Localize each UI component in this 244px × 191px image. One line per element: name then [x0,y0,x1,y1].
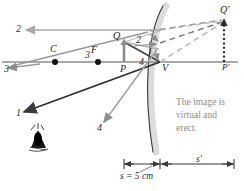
label-point-Q: Q [113,31,120,41]
ray-4-direction-arrow [156,52,158,60]
label-point-P-prime: P′ [222,63,229,72]
ray-label-4-lower: 4 [97,123,102,133]
scale-label-s-prime: s′ [196,155,202,165]
ray-label-4-near-mirror: 4 [139,57,144,67]
scale-label-s: s = 5 cm [120,172,153,182]
ray-3-line [12,32,148,66]
ray-label-1-near-mirror: 1 [148,47,153,56]
mirror-glow [151,6,166,152]
point-dot-F [95,59,101,65]
optics-diagram-canvas: C F Q P V Q′ P′ 2 3 3 2 1 4 1 4 The imag… [0,0,244,191]
label-point-Q-prime: Q′ [220,5,229,15]
ray-label-1-left: 1 [16,108,21,118]
label-point-P: P [120,64,126,74]
caption-line-1: The image is [176,97,225,108]
observer-eye-icon [29,123,48,151]
ray-label-2-near-mirror: 2 [136,35,141,45]
label-point-C: C [50,44,57,54]
point-dot-C [52,59,58,65]
ray-1-reflected [24,62,160,112]
caption-line-3: erect. [176,123,197,134]
diagram-vector-layer [0,0,244,191]
ray-label-3-left: 3 [4,64,9,74]
label-point-V: V [162,63,168,73]
ray-label-3-upper: 3 [85,50,90,60]
caption-line-2: virtual and [176,110,217,121]
label-point-F: F [91,45,97,55]
ray-label-2-left: 2 [16,24,21,34]
